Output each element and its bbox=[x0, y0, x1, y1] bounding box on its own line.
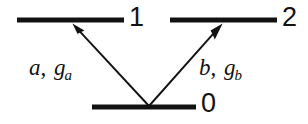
coupling-label-a-mode: a bbox=[29, 55, 41, 80]
transition-arrow-a-shaft bbox=[77, 29, 149, 106]
coupling-label-b-subscript: b bbox=[235, 67, 243, 83]
energy-level-diagram: 1 2 0 a, ga b, gb bbox=[0, 0, 308, 124]
state-label-0: 0 bbox=[201, 90, 216, 117]
transition-arrow-b-head bbox=[211, 23, 223, 39]
coupling-label-b-coupling: g bbox=[224, 55, 236, 80]
transition-arrow-a bbox=[72, 23, 149, 106]
coupling-label-b-mode: b bbox=[199, 55, 211, 80]
transition-arrow-a-head bbox=[72, 23, 84, 39]
coupling-label-a: a, ga bbox=[29, 56, 73, 79]
coupling-label-b-separator: , bbox=[211, 55, 225, 80]
coupling-label-a-separator: , bbox=[41, 55, 55, 80]
coupling-label-a-coupling: g bbox=[54, 55, 66, 80]
state-label-1: 1 bbox=[129, 4, 144, 31]
coupling-label-b: b, gb bbox=[199, 56, 243, 79]
coupling-label-a-subscript: a bbox=[65, 67, 73, 83]
state-label-2: 2 bbox=[282, 4, 297, 31]
